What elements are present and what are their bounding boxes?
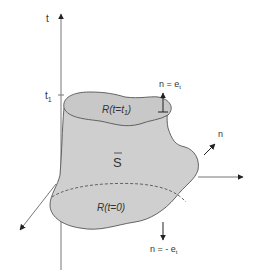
surface-label: S xyxy=(113,155,122,170)
normal-bottom-label: n = - et xyxy=(150,244,178,255)
normal-side-arrow xyxy=(204,144,215,155)
space-time-region-diagram: t t1 R(t=t1) S R(t=0) n = et n n = - et xyxy=(0,0,259,270)
t-axis-label: t xyxy=(46,13,49,24)
diagram-canvas: t t1 R(t=t1) S R(t=0) n = et n n = - et xyxy=(0,0,259,270)
bottom-region-label: R(t=0) xyxy=(97,202,125,213)
normal-side-label: n xyxy=(218,129,223,139)
t1-label: t1 xyxy=(45,90,52,103)
normal-top-label: n = et xyxy=(159,79,181,90)
